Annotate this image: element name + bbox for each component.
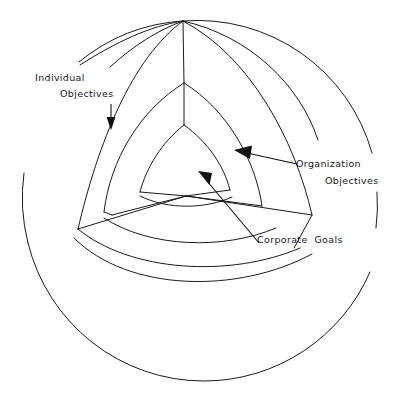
diagram-canvas: Individual Objectives Organization Objec… xyxy=(0,0,417,397)
label-organization-objectives-line1: Organization xyxy=(296,159,361,169)
corporate-goals-arrow xyxy=(198,171,259,243)
individual-objectives-arrow xyxy=(107,104,116,130)
nested-spheres-figure xyxy=(0,0,417,397)
label-individual-objectives-line1: Individual xyxy=(35,73,85,83)
label-individual-objectives-line2: Objectives xyxy=(60,89,114,99)
middle-shell-cut-face xyxy=(104,196,276,243)
label-organization-objectives-line2: Objectives xyxy=(325,176,379,186)
middle-sphere-outline xyxy=(104,21,262,212)
label-corporate-goals: Corporate Goals xyxy=(257,235,343,245)
organization-objectives-arrow xyxy=(234,146,297,165)
